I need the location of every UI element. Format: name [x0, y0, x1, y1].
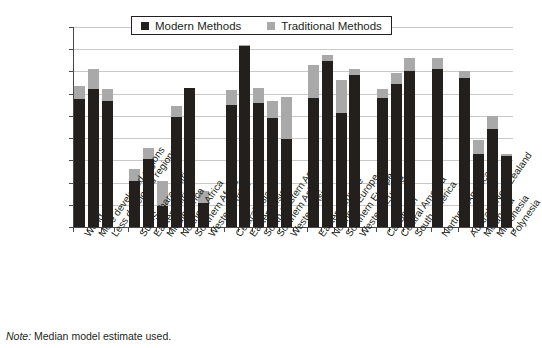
bar-segment-modern	[391, 84, 402, 227]
bar-segment-traditional	[253, 88, 264, 102]
legend-label-modern: Modern Methods	[155, 20, 241, 32]
bar-segment-traditional	[432, 58, 443, 69]
bar-segment-modern	[322, 61, 333, 227]
bar-segment-traditional	[501, 154, 512, 156]
bar-segment-traditional	[322, 55, 333, 62]
bar-group	[102, 27, 113, 227]
legend-swatch-traditional	[267, 22, 275, 30]
bar-segment-traditional	[239, 45, 250, 46]
bar-segment-traditional	[377, 89, 388, 98]
bar-segment-traditional	[102, 89, 113, 101]
chart-note: Note: Median model estimate used.	[6, 330, 171, 342]
x-axis-labels: WorldMore developed regionsLess develope…	[0, 227, 525, 327]
bar-segment-modern	[88, 89, 99, 227]
bar-segment-traditional	[171, 106, 182, 117]
bar-group	[88, 27, 99, 227]
bar-segment-traditional	[74, 86, 85, 99]
bar-segment-traditional	[459, 71, 470, 78]
legend-item-traditional: Traditional Methods	[267, 20, 382, 32]
bar-group	[74, 27, 85, 227]
note-prefix: Note:	[6, 330, 31, 342]
bar-segment-traditional	[281, 97, 292, 139]
bar-segment-traditional	[267, 101, 278, 118]
bar-segment-traditional	[473, 140, 484, 153]
bar-segment-traditional	[336, 80, 347, 112]
bar-segment-traditional	[308, 65, 319, 98]
bar-segment-modern	[102, 101, 113, 227]
bar-segment-traditional	[88, 69, 99, 89]
legend-swatch-modern	[141, 22, 149, 30]
note-text: Median model estimate used.	[31, 330, 171, 342]
bar-segment-traditional	[487, 116, 498, 129]
chart-legend: Modern Methods Traditional Methods	[131, 16, 392, 35]
legend-label-traditional: Traditional Methods	[281, 20, 382, 32]
bar-segment-traditional	[349, 69, 360, 75]
bar-segment-traditional	[226, 90, 237, 104]
bar-segment-modern	[74, 99, 85, 227]
legend-item-modern: Modern Methods	[141, 20, 241, 32]
bar-segment-traditional	[391, 73, 402, 84]
bar-segment-traditional	[404, 58, 415, 71]
